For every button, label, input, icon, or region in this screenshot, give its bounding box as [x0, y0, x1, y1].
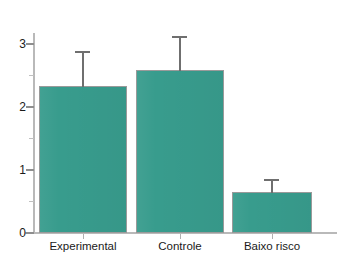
y-tick-0 — [26, 232, 34, 234]
x-axis-label-controle: Controle — [136, 239, 224, 253]
error-bar-stem-baixo-risco — [271, 180, 273, 193]
y-tick-label-2: 2 — [8, 101, 26, 113]
error-bar-cap-experimental — [75, 51, 90, 53]
y-tick-1 — [26, 169, 34, 171]
error-bar-stem-experimental — [82, 52, 84, 87]
y-tick-label-3: 3 — [8, 38, 26, 50]
bar-sheen — [40, 87, 126, 232]
bar-experimental — [39, 86, 127, 233]
y-tick-minor-1-5 — [29, 138, 34, 139]
x-axis-label-baixo-risco: Baixo risco — [232, 239, 312, 253]
error-bar-cap-baixo-risco — [264, 179, 279, 181]
bar-chart: 3 2 1 0 Experimental Controle Baixo risc… — [0, 0, 349, 265]
y-tick-2 — [26, 106, 34, 108]
y-tick-label-1: 1 — [8, 164, 26, 176]
y-tick-minor-2-5 — [29, 75, 34, 76]
bar-sheen — [137, 71, 223, 232]
y-tick-minor-0-5 — [29, 201, 34, 202]
y-tick-3 — [26, 43, 34, 45]
bar-sheen — [233, 193, 311, 232]
error-bar-cap-controle — [172, 36, 187, 38]
bar-baixo-risco — [232, 192, 312, 233]
error-bar-stem-controle — [179, 37, 181, 71]
y-tick-label-0: 0 — [8, 227, 26, 239]
y-axis-line — [33, 33, 35, 234]
bar-controle — [136, 70, 224, 233]
x-axis-label-experimental: Experimental — [39, 239, 127, 253]
